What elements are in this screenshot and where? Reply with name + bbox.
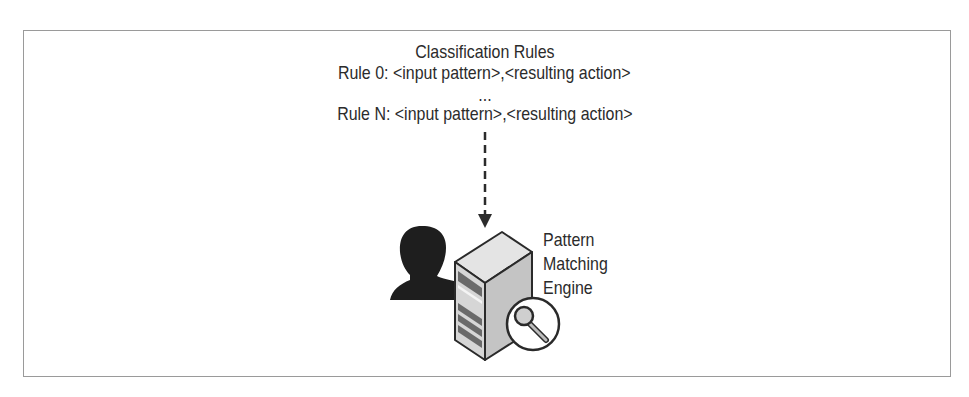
magnifier-icon <box>507 298 559 350</box>
diagram-graphics <box>0 0 969 397</box>
engine-label-line-1: Pattern <box>543 228 608 252</box>
engine-label-line-3: Engine <box>543 276 608 300</box>
user-silhouette-icon <box>390 226 458 300</box>
engine-label-line-2: Matching <box>543 252 608 276</box>
engine-label: Pattern Matching Engine <box>543 228 620 300</box>
dashed-arrow-down-icon <box>478 132 492 228</box>
